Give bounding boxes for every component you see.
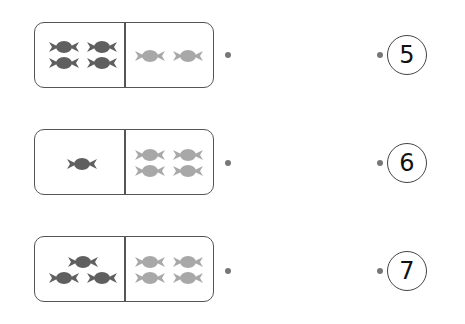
candy-icon — [173, 255, 203, 269]
domino-card-2 — [34, 129, 214, 195]
candy-icon — [173, 271, 203, 285]
matching-row-3: 7 — [0, 236, 465, 316]
candy-icon — [135, 164, 165, 178]
domino-left-half — [35, 237, 124, 301]
left-connect-dot[interactable] — [225, 160, 231, 166]
domino-card-1 — [34, 22, 214, 88]
candy-icon — [67, 157, 97, 171]
candy-icon — [135, 148, 165, 162]
number-label: 7 — [399, 257, 414, 285]
candy-icon — [68, 255, 98, 269]
candy-icon — [173, 148, 203, 162]
number-circle: 5 — [387, 35, 427, 75]
candy-icon — [87, 56, 117, 70]
candy-icon — [49, 40, 79, 54]
domino-right-half — [125, 130, 214, 194]
candy-icon — [135, 255, 165, 269]
matching-row-2: 6 — [0, 129, 465, 209]
candy-icon — [135, 49, 165, 63]
domino-card-3 — [34, 236, 214, 302]
candy-icon — [87, 271, 117, 285]
domino-left-half — [35, 130, 124, 194]
domino-left-half — [35, 23, 124, 87]
candy-icon — [173, 164, 203, 178]
domino-right-half — [125, 237, 214, 301]
right-connect-dot[interactable] — [377, 268, 383, 274]
left-connect-dot[interactable] — [225, 52, 231, 58]
domino-right-half — [125, 23, 214, 87]
number-circle: 7 — [387, 251, 427, 291]
candy-icon — [135, 271, 165, 285]
left-connect-dot[interactable] — [225, 268, 231, 274]
matching-row-1: 5 — [0, 22, 465, 102]
number-label: 6 — [399, 149, 414, 177]
number-circle: 6 — [387, 143, 427, 183]
candy-icon — [49, 56, 79, 70]
candy-icon — [49, 271, 79, 285]
number-label: 5 — [399, 41, 414, 69]
candy-icon — [173, 49, 203, 63]
candy-icon — [87, 40, 117, 54]
right-connect-dot[interactable] — [377, 52, 383, 58]
right-connect-dot[interactable] — [377, 160, 383, 166]
